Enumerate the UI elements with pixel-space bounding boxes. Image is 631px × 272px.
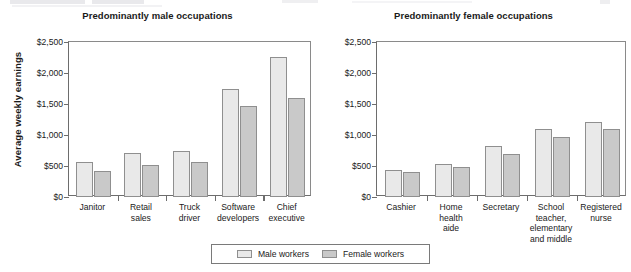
legend-swatch-male [237,250,252,258]
y-tick-mark [372,197,377,198]
bar [535,129,552,197]
y-tick: $2,000 [17,68,69,78]
y-tick: $1,500 [17,99,69,109]
chart-title-male: Predominantly male occupations [0,10,315,21]
x-tick-mark [477,196,478,201]
legend-label-male: Male workers [258,249,309,259]
bar [76,162,93,197]
y-tick-mark [372,135,377,136]
y-tick-label: $1,500 [37,99,63,109]
legend-entry-male: Male workers [237,249,309,259]
y-tick-label: $2,000 [345,68,371,78]
y-tick-label: $1,000 [37,130,63,140]
x-tick-mark [427,196,428,201]
x-tick-mark [118,196,119,201]
bar [403,172,420,197]
y-tick-label: $500 [352,161,371,171]
y-tick-mark [64,42,69,43]
bar [485,146,502,197]
y-tick: $500 [325,161,377,171]
y-tick: $2,500 [325,37,377,47]
y-tick-label: $2,000 [37,68,63,78]
bar [503,154,520,197]
x-tick-mark [577,196,578,201]
y-tick-label: $2,500 [345,37,371,47]
bar [270,57,287,197]
chart-figure: Average weekly earnings Predominantly ma… [0,0,631,272]
y-tick-mark [64,104,69,105]
bar [222,89,239,197]
bar [603,129,620,197]
y-tick: $2,000 [325,68,377,78]
y-tick-mark [64,197,69,198]
y-tick-mark [372,166,377,167]
y-tick: $500 [17,161,69,171]
y-tick-mark [64,166,69,167]
y-tick: $0 [325,192,377,202]
bar [240,106,257,197]
y-tick: $0 [17,192,69,202]
plot-area-male: $0$500$1,000$1,500$2,000$2,500 [68,41,311,196]
y-tick-label: $1,000 [345,130,371,140]
y-tick: $1,500 [325,99,377,109]
bar [124,153,141,197]
panel-male-occupations: Predominantly male occupations $0$500$1,… [0,0,315,272]
plot-area-female: $0$500$1,000$1,500$2,000$2,500 [376,41,626,196]
y-tick-mark [372,73,377,74]
bar [453,167,470,197]
bar [435,164,452,197]
y-tick-mark [64,73,69,74]
y-tick-mark [64,135,69,136]
bar [288,98,305,197]
y-tick-mark [372,42,377,43]
chart-title-female: Predominantly female occupations [316,10,631,21]
y-tick-mark [372,104,377,105]
y-tick: $2,500 [17,37,69,47]
y-tick-label: $1,500 [345,99,371,109]
bar [553,137,570,197]
bar [385,170,402,197]
y-tick-label: $2,500 [37,37,63,47]
x-tick-mark [527,196,528,201]
legend-entry-female: Female workers [322,249,404,259]
bar [94,171,111,197]
bar [142,165,159,197]
y-tick-label: $500 [44,161,63,171]
legend-label-female: Female workers [343,249,404,259]
legend-swatch-female [322,250,337,258]
bar [585,122,602,197]
x-axis-label: Registered nurse [569,202,631,223]
bar [191,162,208,197]
panel-female-occupations: Predominantly female occupations $0$500$… [316,0,631,272]
x-tick-mark [263,196,264,201]
bar [173,151,190,197]
x-tick-mark [215,196,216,201]
x-tick-mark [166,196,167,201]
legend: Male workers Female workers [211,244,430,264]
y-tick-label: $0 [53,192,63,202]
y-tick: $1,000 [17,130,69,140]
y-tick: $1,000 [325,130,377,140]
x-axis-label: Chief executive [255,202,318,223]
y-tick-label: $0 [361,192,371,202]
